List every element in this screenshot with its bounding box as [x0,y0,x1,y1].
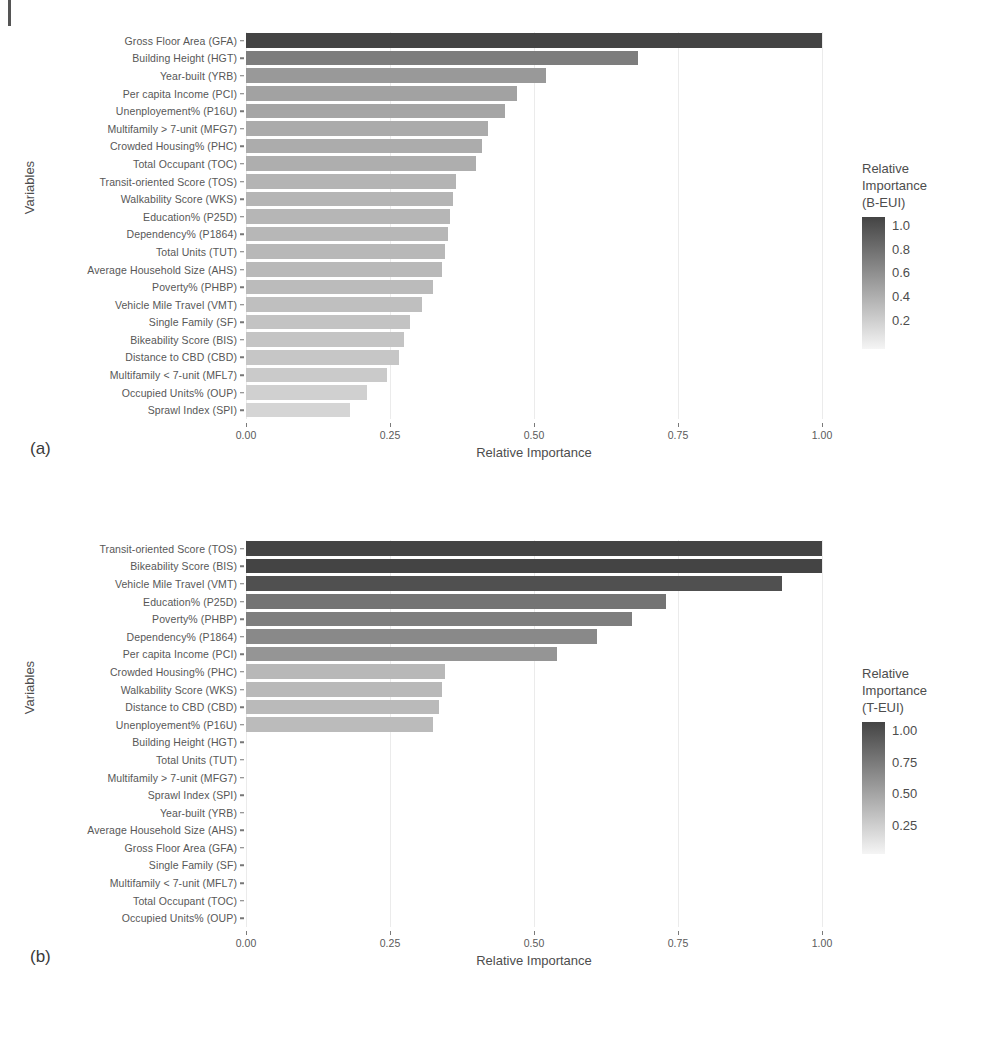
bar [246,121,488,136]
bar [246,629,597,644]
chart-panel-a: Variables Gross Floor Area (GFA)Building… [0,0,982,520]
chart-row: Total Occupant (TOC) [246,155,839,173]
x-axis-tick-label: 1.00 [812,429,832,441]
y-axis-tick-label: Total Occupant (TOC) [133,895,237,907]
y-axis-tick-label: Distance to CBD (CBD) [125,701,237,713]
x-axis-tick-label: 0.25 [380,937,400,949]
y-axis-tick-mark [240,304,244,306]
y-axis-tick-label: Transit-oriented Score (TOS) [99,176,237,188]
chart-row: Dependency% (P1864) [246,226,839,244]
chart-row: Distance to CBD (CBD) [246,698,839,716]
bar [246,700,439,715]
x-axis-tick-label: 0.75 [668,937,688,949]
y-axis-tick-mark [240,163,244,165]
chart-row: Bikeability Score (BIS) [246,331,839,349]
legend-colorbar-a [862,217,885,349]
y-axis-tick-mark [240,847,244,849]
chart-row: Gross Floor Area (GFA) [246,32,839,50]
chart-row: Transit-oriented Score (TOS) [246,540,839,558]
chart-row: Bikeability Score (BIS) [246,558,839,576]
x-axis-tick-label: 0.00 [236,429,256,441]
bar [246,612,632,627]
bar [246,244,445,259]
y-axis-tick-label: Occupied Units% (OUP) [122,387,237,399]
chart-row: Single Family (SF) [246,857,839,875]
y-axis-tick-label: Building Height (HGT) [132,736,237,748]
y-axis-tick-label: Sprawl Index (SPI) [148,404,237,416]
x-axis-tick-label: 0.50 [524,429,544,441]
chart-row: Building Height (HGT) [246,50,839,68]
y-axis-tick-mark [240,181,244,183]
chart-row: Multifamily > 7-unit (MFG7) [246,120,839,138]
y-axis-tick-label: Per capita Income (PCI) [123,648,237,660]
y-axis-tick-mark [240,110,244,112]
y-axis-tick-label: Multifamily < 7-unit (MFL7) [110,877,237,889]
y-axis-tick-mark [240,93,244,95]
chart-row: Multifamily > 7-unit (MFG7) [246,769,839,787]
x-axis-tick-mark [678,931,679,935]
x-axis-tick-label: 1.00 [812,937,832,949]
y-axis-tick-mark [240,548,244,550]
legend-body-b: 1.000.750.500.25 [862,722,927,854]
chart-row: Gross Floor Area (GFA) [246,839,839,857]
bar [246,262,442,277]
y-axis-tick-mark [240,216,244,218]
y-axis-tick-label: Dependency% (P1864) [127,228,237,240]
bar [246,576,782,591]
x-axis-tick-mark [246,931,247,935]
y-axis-tick-label: Vehicle Mile Travel (VMT) [115,578,237,590]
y-axis-tick-label: Walkability Score (WKS) [121,193,237,205]
x-axis-tick-mark [390,931,391,935]
y-axis-tick-label: Bikeability Score (BIS) [130,334,237,346]
x-axis-tick-mark [822,931,823,935]
chart-row: Poverty% (PHBP) [246,278,839,296]
y-axis-title-b: Variables [22,618,37,758]
y-axis-tick-mark [240,251,244,253]
y-axis-tick-label: Multifamily > 7-unit (MFG7) [107,123,237,135]
bar [246,156,476,171]
legend-tick-label: 0.50 [892,786,917,801]
y-axis-tick-label: Dependency% (P1864) [127,631,237,643]
y-axis-tick-mark [240,918,244,920]
y-axis-tick-label: Transit-oriented Score (TOS) [99,543,237,555]
legend-tick-label: 0.2 [892,313,910,328]
bar [246,33,822,48]
bar [246,385,367,400]
bar [246,350,399,365]
bar [246,332,404,347]
chart-row: Unenployement% (P16U) [246,716,839,734]
y-axis-tick-mark [240,794,244,796]
chart-row: Walkability Score (WKS) [246,190,839,208]
bar [246,594,666,609]
y-axis-tick-label: Unenployement% (P16U) [116,105,237,117]
legend-title-b: Relative Importance (T-EUI) [862,665,927,716]
y-axis-tick-mark [240,882,244,884]
y-axis-tick-mark [240,146,244,148]
y-axis-tick-mark [240,865,244,867]
chart-row: Year-built (YRB) [246,67,839,85]
chart-row: Occupied Units% (OUP) [246,384,839,402]
bar [246,280,433,295]
chart-row: Total Units (TUT) [246,243,839,261]
y-axis-tick-label: Gross Floor Area (GFA) [125,842,237,854]
x-axis-tick-mark [822,423,823,427]
x-axis-tick-label: 0.25 [380,429,400,441]
chart-row: Crowded Housing% (PHC) [246,663,839,681]
chart-row: Total Occupant (TOC) [246,892,839,910]
y-axis-tick-mark [240,601,244,603]
x-axis-tick-mark [534,931,535,935]
y-axis-tick-mark [240,40,244,42]
y-axis-tick-label: Walkability Score (WKS) [121,684,237,696]
y-axis-tick-label: Bikeability Score (BIS) [130,560,237,572]
bar [246,541,822,556]
y-axis-tick-label: Gross Floor Area (GFA) [125,35,237,47]
chart-row: Single Family (SF) [246,314,839,332]
y-axis-tick-label: Average Household Size (AHS) [87,824,237,836]
bar [246,368,387,383]
y-axis-tick-label: Single Family (SF) [149,859,237,871]
y-axis-tick-label: Education% (P25D) [143,596,237,608]
y-axis-tick-mark [240,286,244,288]
chart-row: Multifamily < 7-unit (MFL7) [246,366,839,384]
x-axis-tick-mark [246,423,247,427]
y-axis-tick-mark [240,410,244,412]
